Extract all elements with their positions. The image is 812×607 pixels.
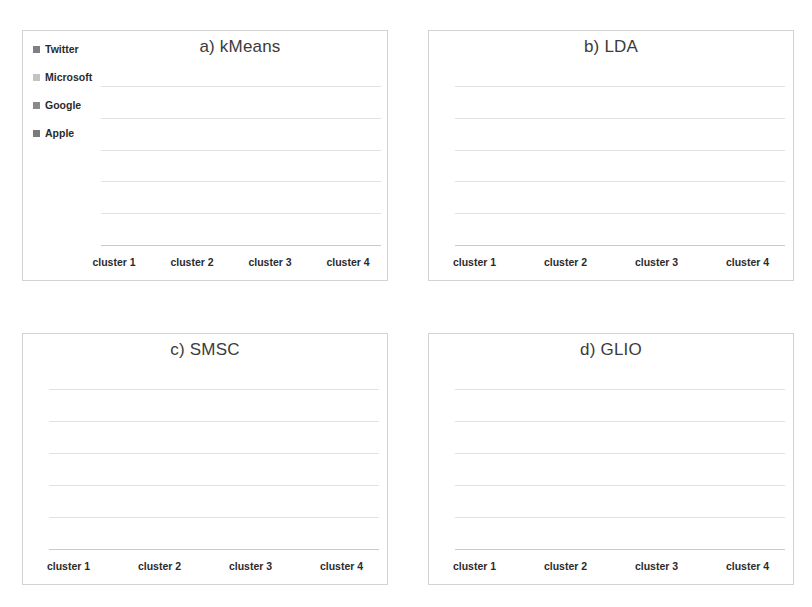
chart-panel-lda: b) LDAcluster 1cluster 2cluster 3cluster…	[428, 30, 794, 281]
bar-column	[538, 55, 621, 246]
bar-column	[132, 358, 215, 550]
legend-swatch-icon	[33, 130, 40, 137]
legend-swatch-icon	[33, 46, 40, 53]
tick-label: cluster 1	[75, 246, 153, 280]
tick-label: cluster 3	[611, 550, 702, 584]
legend-label: Twitter	[45, 43, 79, 55]
chart-legend: TwitterMicrosoftGoogleApple	[33, 43, 92, 155]
bar-column	[311, 55, 381, 246]
legend-swatch-icon	[33, 74, 40, 81]
panel-slot-kmeans: a) kMeansTwitterMicrosoftGoogleAppleclus…	[0, 0, 406, 303]
tick-label: cluster 4	[702, 550, 793, 584]
bar-column	[101, 55, 171, 246]
chart-title-smsc: c) SMSC	[23, 340, 387, 360]
tick-label: cluster 1	[429, 550, 520, 584]
tick-label: cluster 1	[23, 550, 114, 584]
tick-label: cluster 4	[702, 246, 793, 280]
bars-container	[49, 358, 379, 550]
tick-label: cluster 3	[205, 550, 296, 584]
bars-container	[455, 358, 785, 550]
chart-panel-glio: d) GLIOcluster 1cluster 2cluster 3cluste…	[428, 333, 794, 585]
tick-label: cluster 2	[520, 550, 611, 584]
plot-area-smsc	[49, 358, 379, 550]
chart-title-kmeans: a) kMeans	[93, 37, 387, 57]
legend-label: Apple	[45, 127, 74, 139]
bars-container	[455, 55, 785, 246]
bar-column	[214, 358, 297, 550]
x-axis-tick-labels: cluster 1cluster 2cluster 3cluster 4	[75, 246, 387, 280]
tick-label: cluster 4	[309, 246, 387, 280]
chart-panel-smsc: c) SMSCcluster 1cluster 2cluster 3cluste…	[22, 333, 388, 585]
bar-column	[538, 358, 621, 550]
panel-slot-glio: d) GLIOcluster 1cluster 2cluster 3cluste…	[406, 303, 812, 607]
chart-title-lda: b) LDA	[429, 37, 793, 57]
tick-label: cluster 1	[429, 246, 520, 280]
legend-label: Google	[45, 99, 81, 111]
plot-area-glio	[455, 358, 785, 550]
legend-item-microsoft: Microsoft	[33, 71, 92, 83]
figure-grid: a) kMeansTwitterMicrosoftGoogleAppleclus…	[0, 0, 812, 607]
tick-label: cluster 2	[153, 246, 231, 280]
bar-column	[620, 55, 703, 246]
legend-item-twitter: Twitter	[33, 43, 92, 55]
legend-swatch-icon	[33, 102, 40, 109]
tick-label: cluster 3	[611, 246, 702, 280]
bar-column	[703, 55, 786, 246]
bar-column	[49, 358, 132, 550]
x-axis-tick-labels: cluster 1cluster 2cluster 3cluster 4	[429, 246, 793, 280]
plot-area-lda	[455, 55, 785, 246]
bar-column	[297, 358, 380, 550]
plot-area-kmeans	[101, 55, 381, 246]
bar-column	[455, 55, 538, 246]
legend-item-google: Google	[33, 99, 92, 111]
bar-column	[455, 358, 538, 550]
legend-item-apple: Apple	[33, 127, 92, 139]
bar-column	[241, 55, 311, 246]
chart-panel-kmeans: a) kMeansTwitterMicrosoftGoogleAppleclus…	[22, 30, 388, 281]
tick-label: cluster 2	[520, 246, 611, 280]
tick-label: cluster 3	[231, 246, 309, 280]
x-axis-tick-labels: cluster 1cluster 2cluster 3cluster 4	[23, 550, 387, 584]
bars-container	[101, 55, 381, 246]
bar-column	[703, 358, 786, 550]
bar-column	[171, 55, 241, 246]
panel-slot-smsc: c) SMSCcluster 1cluster 2cluster 3cluste…	[0, 303, 406, 607]
panel-slot-lda: b) LDAcluster 1cluster 2cluster 3cluster…	[406, 0, 812, 303]
tick-label: cluster 2	[114, 550, 205, 584]
bar-column	[620, 358, 703, 550]
x-axis-tick-labels: cluster 1cluster 2cluster 3cluster 4	[429, 550, 793, 584]
legend-label: Microsoft	[45, 71, 92, 83]
chart-title-glio: d) GLIO	[429, 340, 793, 360]
tick-label: cluster 4	[296, 550, 387, 584]
